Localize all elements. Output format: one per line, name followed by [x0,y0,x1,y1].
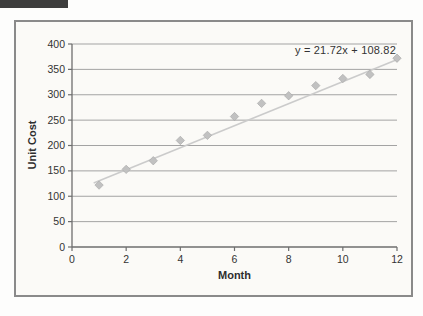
x-tick-label: 8 [286,253,292,265]
data-point-marker [339,74,347,82]
x-tick-label: 12 [391,253,403,265]
y-tick-label: 50 [53,215,65,227]
x-tick-label: 0 [69,253,75,265]
x-axis-title: Month [72,269,397,281]
data-point-marker [230,112,238,120]
y-tick-label: 300 [47,88,65,100]
data-point-marker [284,92,292,100]
y-tick-label: 100 [47,190,65,202]
trendline [94,58,400,183]
data-point-marker [122,165,130,173]
y-tick-label: 350 [47,63,65,75]
y-tick-label: 250 [47,114,65,126]
x-tick-label: 6 [232,253,238,265]
scanned-chart-page: 050100150200250300350400024681012 y = 21… [0,0,423,316]
y-tick-label: 400 [47,38,65,50]
cropped-header-bar-fragment [0,0,68,8]
y-tick-label: 0 [59,241,65,253]
scatter-plot: 050100150200250300350400024681012 [16,22,411,295]
data-point-marker [257,99,265,107]
data-point-marker [312,81,320,89]
y-tick-label: 200 [47,139,65,151]
chart-frame: 050100150200250300350400024681012 y = 21… [14,20,413,297]
y-axis-title: Unit Cost [26,105,38,185]
trendline-equation-label: y = 21.72x + 108.82 [295,44,396,56]
data-point-marker [176,136,184,144]
x-tick-label: 2 [123,253,129,265]
x-tick-label: 4 [177,253,183,265]
x-tick-label: 10 [337,253,349,265]
y-tick-label: 150 [47,164,65,176]
